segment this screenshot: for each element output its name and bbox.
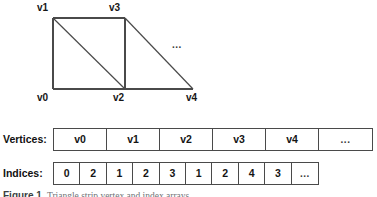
indices-cell[interactable]: 3 [160, 163, 186, 184]
indices-cell-ellipsis[interactable]: ... [292, 163, 318, 184]
vertex-label-v3: v3 [109, 2, 120, 13]
vertices-cell-ellipsis[interactable]: ... [319, 129, 372, 150]
vertices-array-row: Vertices: v0 v1 v2 v3 v4 ... [3, 127, 373, 151]
indices-cell[interactable]: 1 [107, 163, 133, 184]
indices-array-label: Indices: [3, 167, 53, 179]
indices-array-row: Indices: 0 2 1 2 3 1 2 4 3 ... [3, 161, 319, 185]
vertices-cell[interactable]: v4 [266, 129, 319, 150]
indices-cell[interactable]: 2 [80, 163, 106, 184]
indices-array-table: 0 2 1 2 3 1 2 4 3 ... [53, 162, 319, 185]
vertices-array-table: v0 v1 v2 v3 v4 ... [53, 128, 373, 151]
figure-caption: Figure 1. Triangle strip vertex and inde… [3, 190, 373, 197]
diagram-continuation-ellipsis: ... [172, 40, 182, 50]
vertices-cell[interactable]: v1 [107, 129, 160, 150]
vertex-label-v1: v1 [37, 2, 48, 13]
indices-cell[interactable]: 2 [133, 163, 159, 184]
indices-cell[interactable]: 4 [239, 163, 265, 184]
vertices-cell[interactable]: v3 [213, 129, 266, 150]
indices-cell[interactable]: 3 [265, 163, 291, 184]
edge-v3-v4 [125, 18, 193, 89]
vertex-label-v0: v0 [37, 92, 48, 103]
edge-v1-v2 [53, 18, 125, 89]
figure-root: v1 v3 v0 v2 v4 ... Vertices: v0 v1 v2 v3… [0, 0, 377, 197]
triangle-strip-diagram: v1 v3 v0 v2 v4 ... [0, 0, 230, 115]
vertex-label-v2: v2 [113, 92, 124, 103]
figure-caption-text: Triangle strip vertex and index arrays [47, 191, 189, 197]
indices-cell[interactable]: 1 [186, 163, 212, 184]
indices-cell[interactable]: 2 [212, 163, 238, 184]
vertices-cell[interactable]: v2 [160, 129, 213, 150]
vertices-array-label: Vertices: [3, 133, 53, 145]
indices-cell[interactable]: 0 [54, 163, 80, 184]
vertices-cell[interactable]: v0 [54, 129, 107, 150]
vertex-label-v4: v4 [186, 92, 197, 103]
figure-caption-number: Figure 1. [3, 190, 45, 197]
